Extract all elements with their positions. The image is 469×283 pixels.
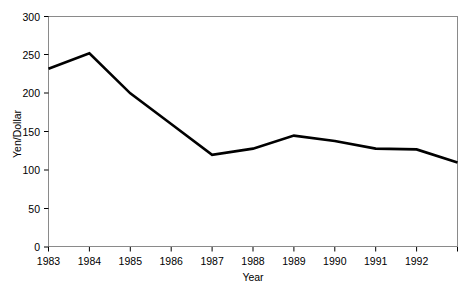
y-axis-ticks — [44, 17, 49, 248]
y-axis-title: Yen/Dollar — [12, 110, 23, 158]
x-tick-label-1989: 1989 — [282, 256, 305, 267]
chart-figure: 0 50 100 150 200 250 300 1983 1984 1985 … — [0, 0, 469, 283]
y-tick-label-200: 200 — [0, 88, 40, 99]
x-tick-label-1991: 1991 — [364, 256, 387, 267]
x-tick-label-1984: 1984 — [78, 256, 101, 267]
x-tick-label-1986: 1986 — [160, 256, 183, 267]
y-tick-label-300: 300 — [0, 11, 40, 22]
y-tick-label-0: 0 — [0, 242, 40, 253]
x-tick-label-1985: 1985 — [119, 256, 142, 267]
x-axis-ticks — [49, 247, 458, 252]
x-tick-label-1983: 1983 — [37, 256, 60, 267]
x-tick-label-1990: 1990 — [323, 256, 346, 267]
y-tick-label-100: 100 — [0, 165, 40, 176]
y-tick-label-50: 50 — [0, 203, 40, 214]
x-tick-label-1988: 1988 — [241, 256, 264, 267]
plot-area — [0, 0, 469, 283]
data-series-line — [49, 53, 458, 162]
plot-frame — [49, 17, 458, 247]
x-axis-title: Year — [242, 272, 263, 283]
y-tick-label-250: 250 — [0, 49, 40, 60]
x-tick-label-1987: 1987 — [200, 256, 223, 267]
x-tick-label-1992: 1992 — [405, 256, 428, 267]
